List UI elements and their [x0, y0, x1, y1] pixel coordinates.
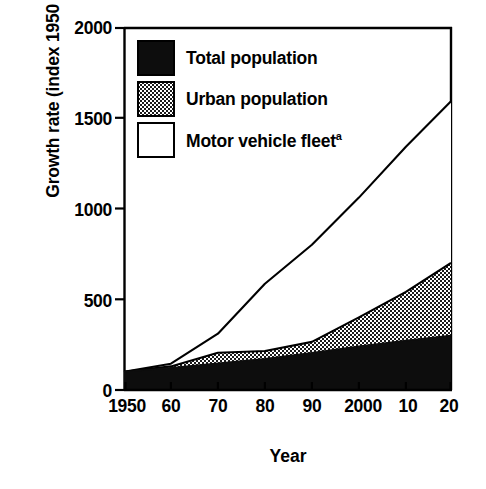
- legend-swatch-urban-population: [138, 82, 174, 116]
- plot-canvas: [0, 0, 486, 489]
- chart-figure: Growth rate (index 1950 = 100) 0 500 100…: [0, 0, 486, 489]
- legend-label-motor-vehicle-fleet: Motor vehicle fleeta: [186, 130, 342, 152]
- legend-label-motor-vehicle-fleet-text: Motor vehicle fleet: [186, 131, 336, 151]
- y-axis-ticks: [115, 28, 124, 390]
- legend-swatch-motor-vehicle-fleet: [138, 123, 174, 157]
- legend: [138, 41, 174, 157]
- legend-label-motor-vehicle-fleet-footnote: a: [336, 130, 342, 142]
- legend-label-urban-population: Urban population: [186, 89, 328, 110]
- legend-swatch-total-population: [138, 41, 174, 75]
- legend-label-total-population: Total population: [186, 48, 318, 69]
